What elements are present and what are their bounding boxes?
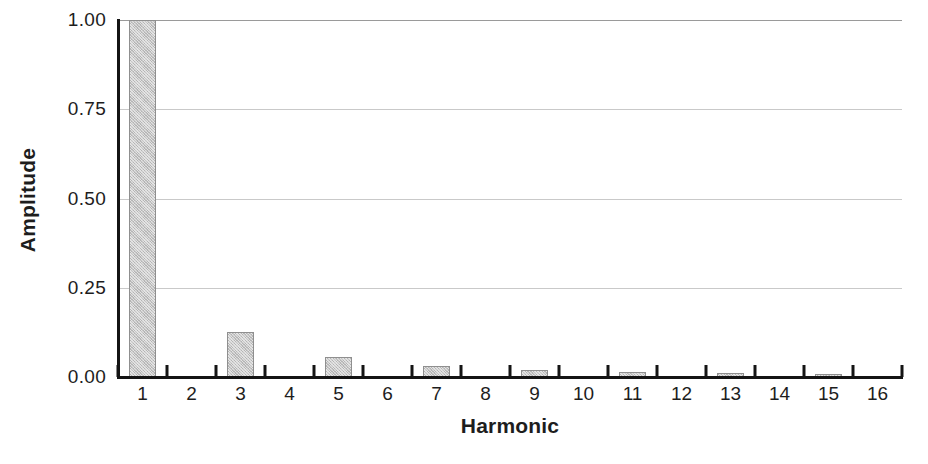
x-tick-label-5: 5 — [333, 383, 344, 405]
x-tick-label-3: 3 — [235, 383, 246, 405]
x-tick-label-8: 8 — [480, 383, 491, 405]
x-tick-mark — [362, 365, 365, 377]
x-tick-mark — [705, 365, 708, 377]
x-tick-mark — [509, 365, 512, 377]
y-tick-label-1.00: 1.00 — [68, 9, 106, 31]
x-tick-mark — [754, 365, 757, 377]
x-tick-mark — [460, 365, 463, 377]
x-tick-mark — [411, 365, 414, 377]
x-tick-label-15: 15 — [818, 383, 839, 405]
y-axis-tick-labels: 0.000.250.500.751.00 — [52, 0, 114, 464]
y-tick-label-0.25: 0.25 — [68, 277, 106, 299]
x-tick-label-9: 9 — [529, 383, 540, 405]
x-tick-mark — [313, 365, 316, 377]
y-axis-title-text: Amplitude — [16, 148, 40, 252]
x-tick-mark — [901, 365, 904, 377]
x-tick-mark — [607, 365, 610, 377]
x-tick-mark — [166, 365, 169, 377]
x-tick-label-13: 13 — [720, 383, 741, 405]
x-tick-mark — [117, 365, 120, 377]
x-tick-label-7: 7 — [431, 383, 442, 405]
x-tick-mark — [656, 365, 659, 377]
x-tick-label-14: 14 — [769, 383, 790, 405]
x-tick-label-12: 12 — [671, 383, 692, 405]
y-tick-label-0.00: 0.00 — [68, 366, 106, 388]
harmonic-amplitude-chart: Amplitude 0.000.250.500.751.00 123456789… — [0, 0, 928, 464]
x-tick-label-10: 10 — [573, 383, 594, 405]
x-tick-label-16: 16 — [867, 383, 888, 405]
x-tick-label-6: 6 — [382, 383, 393, 405]
x-axis-title: Harmonic — [118, 414, 902, 438]
x-tick-mark — [215, 365, 218, 377]
x-tick-label-2: 2 — [186, 383, 197, 405]
y-axis-title: Amplitude — [0, 0, 56, 400]
x-tick-mark — [852, 365, 855, 377]
x-tick-mark — [264, 365, 267, 377]
x-tick-mark — [558, 365, 561, 377]
x-tick-label-11: 11 — [623, 383, 643, 405]
x-tick-label-4: 4 — [284, 383, 295, 405]
x-tick-label-1: 1 — [137, 383, 148, 405]
x-tick-mark — [803, 365, 806, 377]
x-axis-ticks-and-labels: 12345678910111213141516 — [118, 0, 902, 464]
y-tick-label-0.75: 0.75 — [68, 98, 106, 120]
y-tick-label-0.50: 0.50 — [68, 188, 106, 210]
